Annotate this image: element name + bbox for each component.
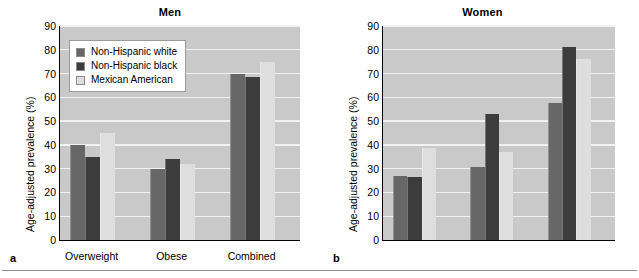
y-axis-tick-20: 20 xyxy=(357,186,379,198)
y-axis-tick-10: 10 xyxy=(357,210,379,222)
y-axis-tick-0: 0 xyxy=(34,234,56,246)
legend-label-non-hispanic-black: Non-Hispanic black xyxy=(91,61,177,71)
y-axis-tick-30: 30 xyxy=(34,163,56,175)
y-axis-tick-0: 0 xyxy=(357,234,379,246)
y-axis-tick-80: 80 xyxy=(357,44,379,56)
plot-area-women xyxy=(382,26,615,241)
y-axis-tick-40: 40 xyxy=(34,139,56,151)
y-axis-ticks-men: 0102030405060708090 xyxy=(0,0,56,278)
bar-combined-series-1 xyxy=(245,77,260,240)
panel-women: Women Age-adjusted prevalence (%) 010203… xyxy=(320,0,639,278)
bar-combined-series-1 xyxy=(562,47,576,240)
bar-combined-series-2 xyxy=(260,62,275,240)
panel-title-women: Women xyxy=(350,6,615,18)
legend-item-non-hispanic-white: Non-Hispanic white xyxy=(76,45,177,59)
bar-overweight-series-2 xyxy=(422,148,436,240)
y-axis-tick-70: 70 xyxy=(357,68,379,80)
y-axis-tick-60: 60 xyxy=(357,91,379,103)
y-axis-tick-90: 90 xyxy=(34,20,56,32)
y-axis-tick-60: 60 xyxy=(34,91,56,103)
y-axis-tick-30: 30 xyxy=(357,163,379,175)
bar-overweight-series-1 xyxy=(407,177,421,240)
y-axis-tick-90: 90 xyxy=(357,20,379,32)
bar-obese-series-2 xyxy=(180,164,195,240)
y-axis-tick-40: 40 xyxy=(357,139,379,151)
panel-letter-b: b xyxy=(333,252,340,264)
bar-obese-series-0 xyxy=(470,167,484,240)
x-axis-tick-combined: Combined xyxy=(228,250,276,262)
bar-overweight-series-0 xyxy=(393,176,407,240)
panel-letter-a: a xyxy=(10,252,16,264)
y-axis-tick-80: 80 xyxy=(34,44,56,56)
panel-title-men: Men xyxy=(40,6,300,18)
bar-obese-series-1 xyxy=(485,114,499,240)
legend: Non-Hispanic white Non-Hispanic black Me… xyxy=(69,40,186,92)
y-axis-tick-10: 10 xyxy=(34,210,56,222)
bar-overweight-series-0 xyxy=(70,145,85,240)
legend-swatch-icon-non-hispanic-white xyxy=(76,48,85,57)
bar-obese-series-2 xyxy=(499,152,513,240)
y-axis-ticks-women: 0102030405060708090 xyxy=(320,0,379,278)
panel-men: Men Age-adjusted prevalence (%) 01020304… xyxy=(0,0,320,278)
legend-item-mexican-american: Mexican American xyxy=(76,73,177,87)
bar-combined-series-0 xyxy=(230,74,245,240)
bar-combined-series-2 xyxy=(576,59,590,240)
legend-label-non-hispanic-white: Non-Hispanic white xyxy=(91,47,177,57)
bar-overweight-series-2 xyxy=(100,133,115,240)
legend-item-non-hispanic-black: Non-Hispanic black xyxy=(76,59,177,73)
bar-overweight-series-1 xyxy=(85,157,100,240)
y-axis-tick-50: 50 xyxy=(34,115,56,127)
legend-swatch-icon-mexican-american xyxy=(76,76,85,85)
bar-obese-series-0 xyxy=(150,169,165,240)
x-axis-tick-overweight: Overweight xyxy=(65,250,118,262)
y-axis-tick-70: 70 xyxy=(34,68,56,80)
y-axis-tick-20: 20 xyxy=(34,186,56,198)
bottom-rule xyxy=(2,270,637,271)
bar-obese-series-1 xyxy=(165,159,180,240)
y-axis-tick-50: 50 xyxy=(357,115,379,127)
bar-combined-series-0 xyxy=(548,103,562,240)
legend-swatch-icon-non-hispanic-black xyxy=(76,62,85,71)
legend-label-mexican-american: Mexican American xyxy=(91,75,173,85)
x-axis-tick-obese: Obese xyxy=(156,250,187,262)
bar-series-women xyxy=(383,26,615,240)
